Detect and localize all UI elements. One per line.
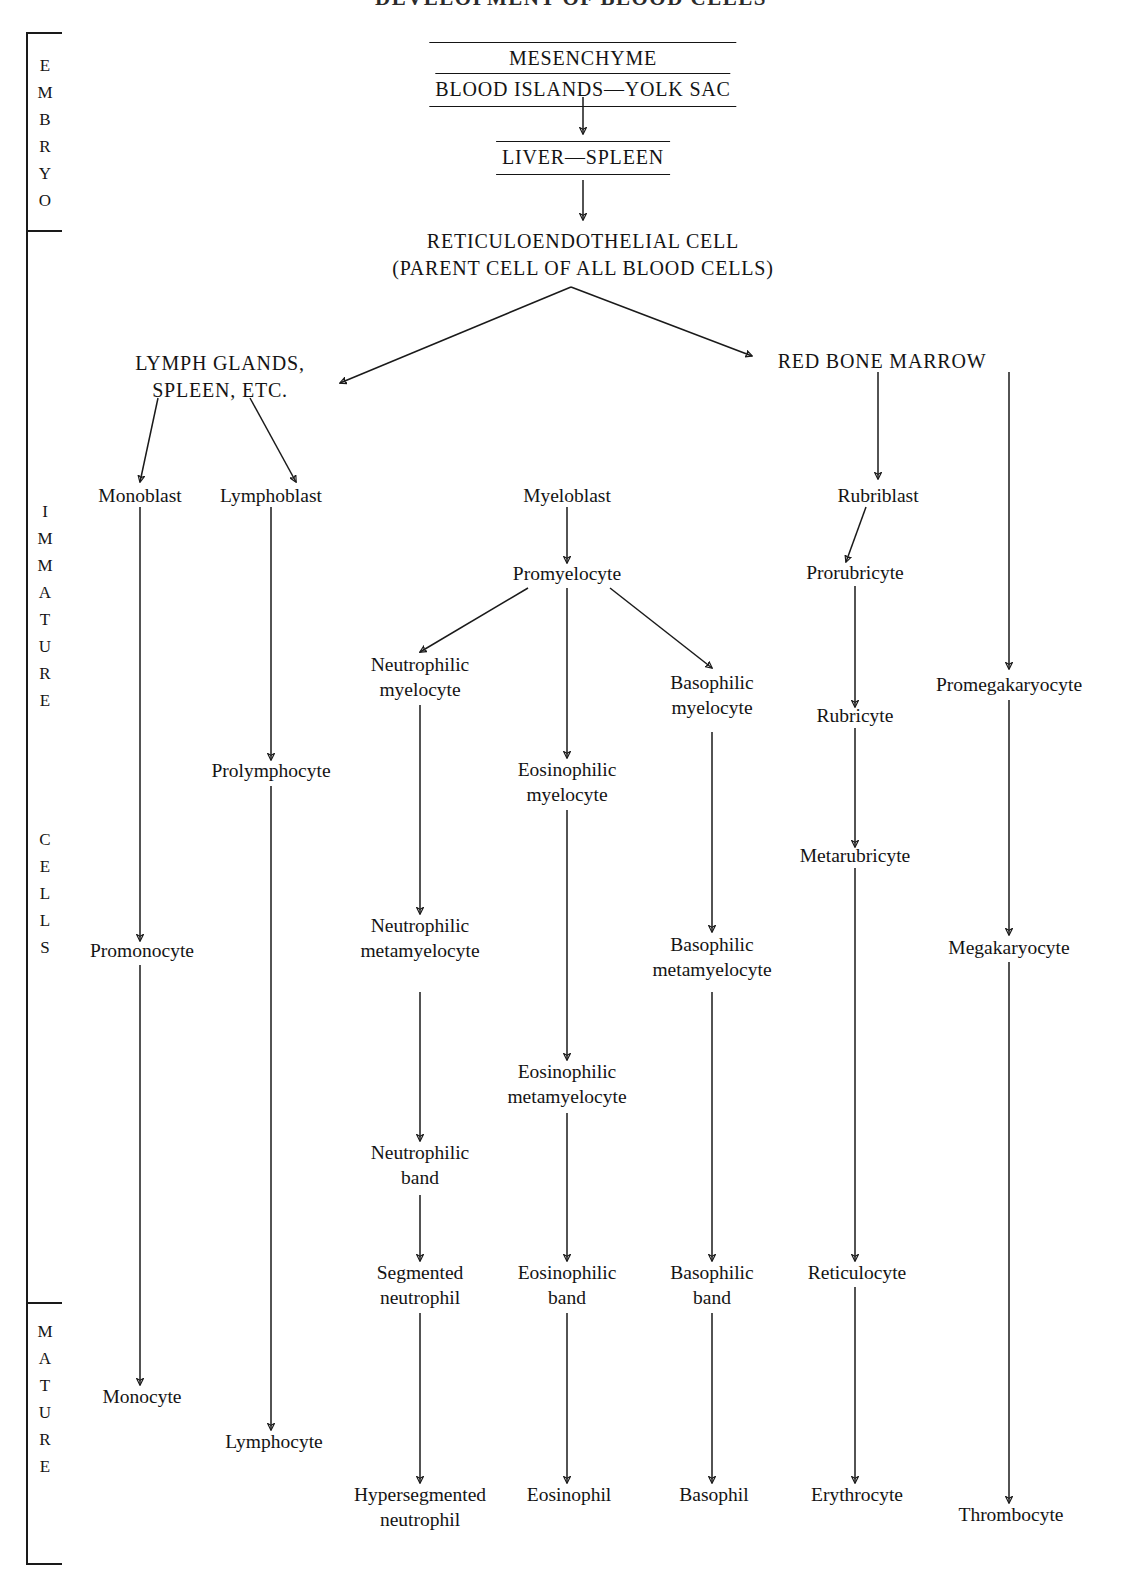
node-label-basophilic-band-line1: Basophilic <box>670 1262 753 1283</box>
node-eosinophilic-myelocyte: Eosinophilic myelocyte <box>518 757 617 807</box>
node-basophilic-myelocyte: Basophilic myelocyte <box>670 670 753 720</box>
bracket-spine <box>26 232 28 1302</box>
node-eosinophilic-metamyelocyte: Eosinophilic metamyelocyte <box>507 1059 626 1109</box>
node-label-megakaryocyte: Megakaryocyte <box>948 937 1069 958</box>
node-label-eosinophilic-band-line1: Eosinophilic <box>518 1262 617 1283</box>
node-label-basophilic-myelocyte-line2: myelocyte <box>670 695 753 720</box>
node-neutrophilic-metamyelocyte: Neutrophilic metamyelocyte <box>360 913 479 963</box>
node-rubricyte: Rubricyte <box>817 703 894 728</box>
node-label-monoblast: Monoblast <box>98 485 181 506</box>
node-label-basophilic-metamyelocyte-line2: metamyelocyte <box>652 957 771 982</box>
bracket-spine <box>26 32 28 232</box>
node-label-lymphoblast: Lymphoblast <box>220 485 322 506</box>
node-myeloblast: Myeloblast <box>523 483 611 508</box>
node-label-basophilic-metamyelocyte-line1: Basophilic <box>670 934 753 955</box>
node-prorubricyte: Prorubricyte <box>806 560 903 585</box>
stage-letter: E <box>30 1453 60 1480</box>
stage-letter: T <box>30 606 60 633</box>
node-lymph-glands-spleen: LYMPH GLANDS, SPLEEN, ETC. <box>135 350 305 404</box>
node-megakaryocyte: Megakaryocyte <box>948 935 1069 960</box>
node-label-eosinophilic-metamyelocyte-line1: Eosinophilic <box>518 1061 617 1082</box>
node-label-segmented-neutrophil-line1: Segmented <box>377 1262 464 1283</box>
node-label-hypersegmented-neutrophil-line2: neutrophil <box>354 1507 486 1532</box>
node-red-bone-marrow: RED BONE MARROW <box>778 348 987 375</box>
node-neutrophilic-myelocyte: Neutrophilic myelocyte <box>371 652 470 702</box>
node-label-eosinophilic-metamyelocyte-line2: metamyelocyte <box>507 1084 626 1109</box>
stage-letter: R <box>30 660 60 687</box>
stage-letter: U <box>30 633 60 660</box>
stage-letter: A <box>30 579 60 606</box>
node-label-liver-spleen: LIVER—SPLEEN <box>502 146 664 168</box>
stage-letter: E <box>30 687 60 714</box>
node-label-eosinophilic-band-line2: band <box>518 1285 617 1310</box>
stage-label-cells: C E L L S <box>30 826 60 961</box>
node-promyelocyte: Promyelocyte <box>513 561 621 586</box>
page-title: DEVELOPMENT OF BLOOD CELLS <box>0 0 1142 11</box>
node-label-neutrophilic-band-line2: band <box>371 1165 470 1190</box>
stage-letter: Y <box>30 160 60 187</box>
node-label-eosinophilic-myelocyte-line2: myelocyte <box>518 782 617 807</box>
node-thrombocyte: Thrombocyte <box>958 1502 1063 1527</box>
node-label-rubricyte: Rubricyte <box>817 705 894 726</box>
stage-letter: M <box>30 79 60 106</box>
node-label-lymph-glands-line1: LYMPH GLANDS, <box>135 352 305 374</box>
node-mesenchyme-blood-islands: MESENCHYME BLOOD ISLANDS—YOLK SAC <box>429 42 736 107</box>
node-label-rubriblast: Rubriblast <box>837 485 918 506</box>
node-monocyte: Monocyte <box>102 1384 181 1409</box>
stage-letter: E <box>30 52 60 79</box>
node-label-myeloblast: Myeloblast <box>523 485 611 506</box>
node-label-eosinophil: Eosinophil <box>527 1484 612 1505</box>
node-label-mesenchyme: MESENCHYME <box>435 45 730 74</box>
node-promegakaryocyte: Promegakaryocyte <box>936 672 1082 697</box>
node-erythrocyte: Erythrocyte <box>811 1482 903 1507</box>
node-liver-spleen: LIVER—SPLEEN <box>496 141 670 175</box>
node-label-metarubricyte: Metarubricyte <box>800 845 910 866</box>
node-label-basophil: Basophil <box>679 1484 748 1505</box>
node-label-thrombocyte: Thrombocyte <box>958 1504 1063 1525</box>
node-label-prorubricyte: Prorubricyte <box>806 562 903 583</box>
node-label-reticuloendothelial: RETICULOENDOTHELIAL CELL <box>427 230 739 252</box>
node-promonocyte: Promonocyte <box>90 938 194 963</box>
node-label-erythrocyte: Erythrocyte <box>811 1484 903 1505</box>
node-label-parent-cell: (PARENT CELL OF ALL BLOOD CELLS) <box>392 255 773 282</box>
stage-letter: S <box>30 934 60 961</box>
node-prolymphocyte: Prolymphocyte <box>211 758 330 783</box>
node-hypersegmented-neutrophil: Hypersegmented neutrophil <box>354 1482 486 1532</box>
bracket-cap-bottom <box>26 1563 62 1565</box>
stage-letter: T <box>30 1372 60 1399</box>
stage-label-mature: M A T U R E <box>30 1318 60 1480</box>
node-label-neutrophilic-band-line1: Neutrophilic <box>371 1142 470 1163</box>
node-eosinophilic-band: Eosinophilic band <box>518 1260 617 1310</box>
bracket-spine <box>26 1302 28 1565</box>
node-basophil: Basophil <box>679 1482 748 1507</box>
bracket-cap-top <box>26 32 62 34</box>
stage-letter: M <box>30 525 60 552</box>
bracket-immature-cells <box>0 232 70 1302</box>
node-label-neutrophilic-myelocyte-line1: Neutrophilic <box>371 654 470 675</box>
node-rubriblast: Rubriblast <box>837 483 918 508</box>
stage-letter: L <box>30 880 60 907</box>
stage-letter: E <box>30 853 60 880</box>
node-reticuloendothelial-cell: RETICULOENDOTHELIAL CELL (PARENT CELL OF… <box>392 228 773 282</box>
bracket-cap-top <box>26 1302 62 1304</box>
stage-letter: M <box>30 552 60 579</box>
node-label-neutrophilic-metamyelocyte-line1: Neutrophilic <box>371 915 470 936</box>
stage-letter: I <box>30 498 60 525</box>
node-reticulocyte: Reticulocyte <box>808 1260 907 1285</box>
node-label-neutrophilic-metamyelocyte-line2: metamyelocyte <box>360 938 479 963</box>
node-label-promonocyte: Promonocyte <box>90 940 194 961</box>
node-label-hypersegmented-neutrophil-line1: Hypersegmented <box>354 1484 486 1505</box>
node-label-eosinophilic-myelocyte-line1: Eosinophilic <box>518 759 617 780</box>
node-label-promegakaryocyte: Promegakaryocyte <box>936 674 1082 695</box>
node-label-lymphocyte: Lymphocyte <box>225 1431 322 1452</box>
node-neutrophilic-band: Neutrophilic band <box>371 1140 470 1190</box>
node-label-neutrophilic-myelocyte-line2: myelocyte <box>371 677 470 702</box>
node-label-blood-islands: BLOOD ISLANDS—YOLK SAC <box>435 74 730 103</box>
node-label-lymph-glands-line2: SPLEEN, ETC. <box>135 377 305 404</box>
node-label-reticulocyte: Reticulocyte <box>808 1262 907 1283</box>
node-label-red-bone-marrow: RED BONE MARROW <box>778 350 987 372</box>
node-basophilic-metamyelocyte: Basophilic metamyelocyte <box>652 932 771 982</box>
stage-label-embryo: E M B R Y O <box>30 52 60 214</box>
stage-letter: M <box>30 1318 60 1345</box>
node-label-segmented-neutrophil-line2: neutrophil <box>377 1285 464 1310</box>
